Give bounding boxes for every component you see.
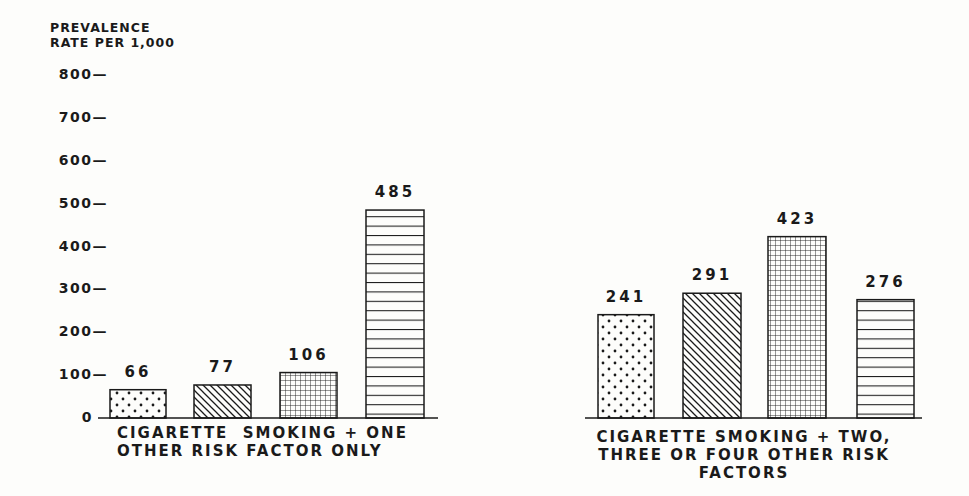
caption-left-line-2: OTHER RISK FACTOR ONLY bbox=[117, 442, 408, 460]
bar-grid-106 bbox=[280, 373, 337, 418]
bar-horizontal-276 bbox=[857, 300, 914, 418]
value-label-485: 485 bbox=[360, 184, 430, 200]
value-label-291: 291 bbox=[677, 267, 747, 283]
caption-right-line-2: THREE OR FOUR OTHER RISK FACTORS bbox=[564, 446, 924, 482]
value-label-276: 276 bbox=[851, 274, 921, 290]
bar-dots-66 bbox=[110, 390, 166, 418]
value-label-66: 66 bbox=[103, 364, 173, 380]
value-label-77: 77 bbox=[188, 359, 258, 375]
value-label-241: 241 bbox=[591, 289, 661, 305]
bar-diagonal-77 bbox=[194, 385, 251, 418]
bar-grid-423 bbox=[768, 237, 826, 418]
bar-dots-241 bbox=[598, 315, 654, 418]
caption-right-line-1: CIGARETTE SMOKING + TWO, bbox=[564, 428, 924, 446]
value-label-423: 423 bbox=[762, 211, 832, 227]
caption-left-line-1: CIGARETTE SMOKING + ONE bbox=[117, 424, 408, 442]
value-label-106: 106 bbox=[274, 347, 344, 363]
bar-horizontal-485 bbox=[366, 210, 424, 418]
bar-chart-plot bbox=[0, 0, 969, 496]
group-caption-left: CIGARETTE SMOKING + ONE OTHER RISK FACTO… bbox=[117, 424, 408, 460]
group-caption-right: CIGARETTE SMOKING + TWO, THREE OR FOUR O… bbox=[564, 428, 924, 482]
bar-diagonal-291 bbox=[683, 293, 741, 418]
